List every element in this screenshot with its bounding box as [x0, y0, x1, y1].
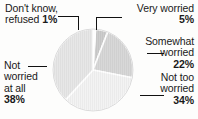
slice-label-not-worried-at-all: Not worried at all 38%	[4, 60, 38, 106]
slice-label-dont-know-line2: refused 1%	[5, 14, 58, 25]
slice-label-dont-know: Don't know, refused 1%	[5, 3, 58, 26]
pie-slice-group	[53, 29, 133, 111]
slice-label-somewhat-worried: Somewhat worried 22%	[145, 36, 194, 70]
slice-value-not-too-worried: 34%	[160, 95, 194, 106]
slice-value-dont-know: 1%	[42, 13, 57, 25]
leader-line-very-worried-vertical	[96, 17, 97, 30]
leader-line-very-worried	[96, 17, 122, 18]
slice-label-very-worried: Very worried 5%	[137, 3, 194, 26]
leader-line-dont-know-vertical	[78, 16, 79, 30]
pie-chart-figure: Don't know, refused 1% Very worried 5% S…	[0, 0, 198, 119]
leader-line-dont-know	[58, 16, 79, 17]
slice-value-very-worried: 5%	[137, 14, 194, 25]
slice-value-somewhat-worried: 22%	[145, 59, 194, 70]
pie-chart-svg	[52, 28, 134, 112]
pie-chart	[52, 28, 134, 112]
slice-label-dont-know-text: refused	[5, 13, 39, 25]
slice-value-not-worried-at-all: 38%	[4, 94, 38, 105]
slice-label-not-too-worried: Not too worried 34%	[160, 72, 194, 106]
